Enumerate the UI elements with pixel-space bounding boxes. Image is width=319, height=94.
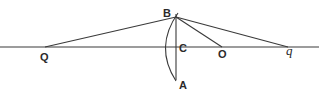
label-q: q — [286, 43, 293, 58]
optics-diagram: Q B C O q A — [0, 0, 319, 94]
label-C: C — [179, 42, 187, 54]
label-Q: Q — [40, 51, 49, 63]
label-B: B — [163, 7, 171, 19]
ray-Bq — [176, 17, 288, 47]
ray-QB — [45, 17, 176, 47]
label-O: O — [218, 48, 227, 60]
label-A: A — [179, 79, 187, 91]
